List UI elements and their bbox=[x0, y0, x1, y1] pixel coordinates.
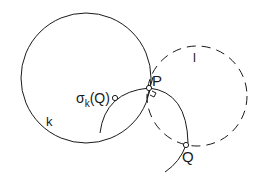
circle-l bbox=[147, 46, 247, 146]
point-sigma-q bbox=[112, 95, 117, 100]
label-sigma-q: σk(Q) bbox=[76, 90, 110, 109]
sigma-argument: (Q) bbox=[90, 90, 110, 106]
label-q: Q bbox=[182, 148, 194, 165]
point-p bbox=[146, 85, 151, 90]
geometry-diagram: k l P Q σk(Q) bbox=[0, 0, 260, 184]
label-k: k bbox=[46, 114, 53, 129]
circle-k bbox=[21, 13, 151, 143]
point-q bbox=[183, 142, 188, 147]
label-p: P bbox=[152, 72, 162, 89]
right-angle-marker bbox=[150, 91, 156, 97]
sigma-symbol: σ bbox=[76, 90, 85, 106]
label-l: l bbox=[193, 50, 196, 65]
